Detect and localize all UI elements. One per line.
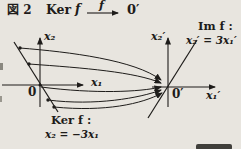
map-function-label: f xyxy=(99,0,104,12)
left-origin-label: 0 xyxy=(28,86,36,98)
title-kernel-function: f xyxy=(75,3,80,16)
title-kernel-word: Ker xyxy=(46,4,71,17)
figure-label: 図 2 xyxy=(7,4,32,16)
scan-speck-1 xyxy=(0,63,3,70)
kernel-caption-equation: x₂ = −3x₁ xyxy=(45,129,99,140)
left-y-axis-label: x₂ xyxy=(44,31,55,42)
right-y-axis-label: x₂′ xyxy=(151,31,165,42)
figure-2-diagram: 図 2 Ker f f 0′ x₂ x₁ 0 Ker f : x₂ = −3x₁… xyxy=(0,0,241,149)
scan-smudge xyxy=(196,144,232,149)
title-codomain: 0′ xyxy=(127,3,139,16)
right-x-axis-label: x₁′ xyxy=(206,90,220,101)
left-origin-point xyxy=(39,84,42,87)
scan-speck-2 xyxy=(0,96,2,102)
right-origin-label: 0′ xyxy=(172,88,184,100)
image-line xyxy=(148,40,197,118)
left-x-axis-label: x₁ xyxy=(91,77,102,88)
image-caption-equation: x₂′ = 3x₁′ xyxy=(186,35,237,46)
kernel-caption-title: Ker f : xyxy=(51,115,91,127)
image-caption-title: Im f : xyxy=(198,21,233,33)
kernel-line xyxy=(14,42,58,112)
